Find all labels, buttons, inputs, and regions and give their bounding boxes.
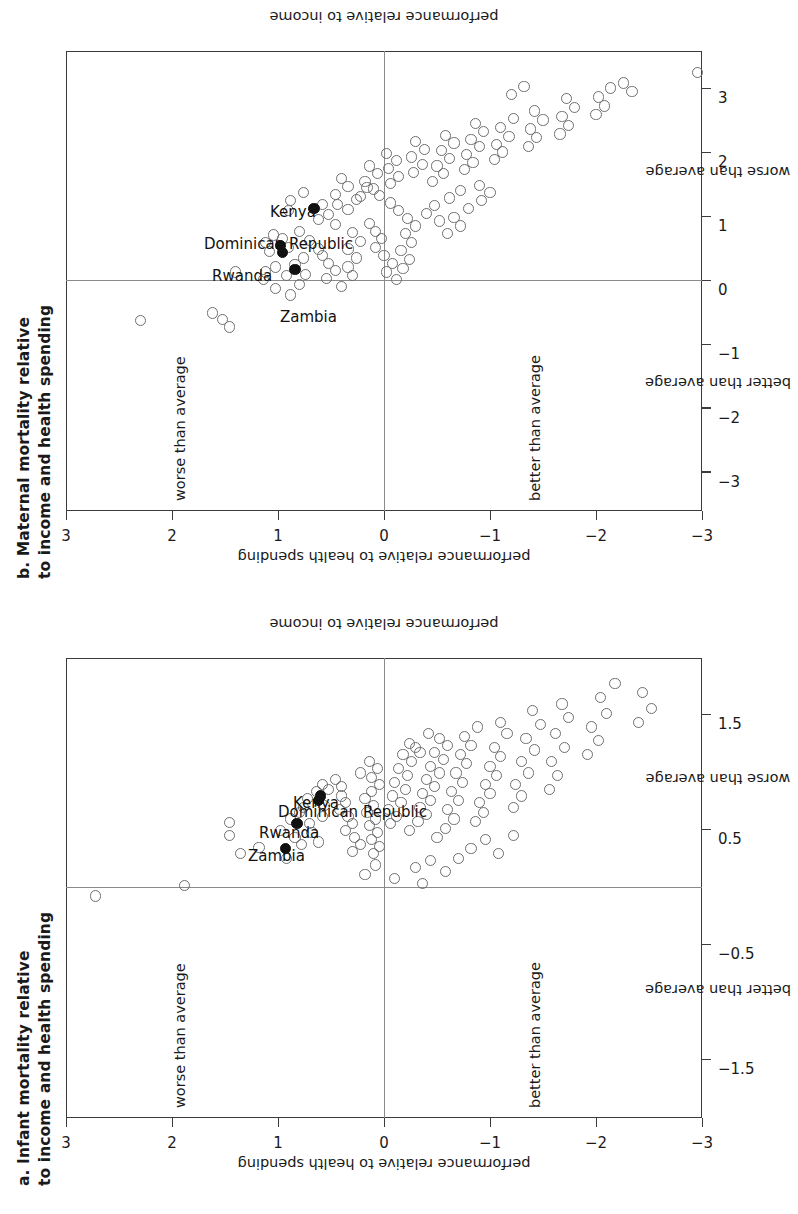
data-point [410, 220, 421, 231]
x-tick [702, 216, 711, 217]
y-tick [490, 511, 491, 520]
y-tick-label: 0 [379, 1134, 389, 1152]
reference-line-horizontal-a [384, 658, 385, 1118]
data-point [484, 187, 495, 198]
panel-a-container: a. Infant mortality relative to income a… [0, 607, 798, 1214]
data-point [421, 208, 432, 219]
y-axis-title: performance relative to health spending [238, 549, 531, 565]
quadrant-label-x-positive: worse than average [646, 771, 791, 787]
data-point [444, 192, 455, 203]
x-tick [702, 88, 711, 89]
quadrant-label-x-negative: better than average [645, 982, 791, 998]
panel-b: b. Maternal mortality relative to income… [0, 0, 798, 607]
data-point [491, 139, 502, 150]
data-point [455, 185, 466, 196]
y-tick [278, 1118, 279, 1127]
data-point [90, 890, 101, 901]
figure-page: { "figure": { "orientation": "rotated-90… [0, 0, 798, 1214]
y-tick-label: 2 [167, 527, 177, 545]
data-point [465, 134, 476, 145]
country-label-dominican-republic: Dominican Republic [204, 235, 353, 253]
panel-a-title-line1: a. Infant mortality relative [14, 626, 35, 1186]
data-point [472, 721, 483, 732]
data-point [544, 784, 555, 795]
data-point [395, 245, 406, 256]
y-tick-label: 3 [61, 1134, 71, 1152]
x-tick [702, 280, 711, 281]
x-tick [702, 344, 711, 345]
x-tick [702, 471, 711, 472]
data-point [478, 807, 489, 818]
data-point [554, 128, 565, 139]
data-point [207, 307, 218, 318]
data-point [285, 289, 296, 300]
y-tick-label: 1 [273, 1134, 283, 1152]
y-tick [66, 1118, 67, 1127]
data-point [400, 784, 411, 795]
data-point [508, 830, 519, 841]
x-tick [702, 1059, 711, 1060]
data-point [450, 767, 461, 778]
data-point [470, 816, 481, 827]
data-point [330, 189, 341, 200]
y-tick-label: −2 [585, 1134, 607, 1152]
data-point [434, 733, 445, 744]
data-point [525, 123, 536, 134]
reference-line-horizontal-b [384, 51, 385, 511]
data-point [370, 859, 381, 870]
data-point [436, 145, 447, 156]
data-point [404, 738, 415, 749]
data-point [503, 131, 514, 142]
y-tick [278, 511, 279, 520]
quadrant-label-x-positive: worse than average [646, 164, 791, 180]
country-label-rwanda: Rwanda [212, 267, 272, 285]
x-tick [702, 944, 711, 945]
data-point [605, 82, 616, 93]
data-point [593, 91, 604, 102]
y-tick-label: −3 [691, 527, 713, 545]
data-point [364, 756, 375, 767]
data-point [332, 199, 343, 210]
x-tick [702, 714, 711, 715]
data-point [474, 180, 485, 191]
y-tick-label: 1 [273, 527, 283, 545]
data-point [397, 749, 408, 760]
country-label-zambia: Zambia [248, 847, 305, 865]
data-point [224, 830, 235, 841]
data-point [381, 148, 392, 159]
data-point [387, 790, 398, 801]
quadrant-label-y-negative: better than average [527, 355, 543, 501]
panel-a-title: a. Infant mortality relative to income a… [14, 626, 56, 1186]
quadrant-label-y-positive: worse than average [172, 963, 188, 1108]
y-tick [66, 511, 67, 520]
data-point [559, 742, 570, 753]
data-point [556, 111, 567, 122]
data-point [448, 137, 459, 148]
data-point [135, 315, 146, 326]
data-point [417, 788, 428, 799]
x-tick-label: −0.5 [718, 946, 754, 964]
data-point [465, 843, 476, 854]
y-tick-label: −3 [691, 1134, 713, 1152]
country-label-rwanda: Rwanda [259, 824, 319, 842]
data-point [404, 825, 415, 836]
x-tick [702, 829, 711, 830]
y-tick [384, 1118, 385, 1127]
data-point [419, 144, 430, 155]
data-point [459, 731, 470, 742]
data-point [402, 213, 413, 224]
data-point [336, 281, 347, 292]
panel-a-title-line2: to income and health spending [35, 626, 56, 1186]
data-point [359, 869, 370, 880]
data-point [414, 747, 425, 758]
data-point [501, 728, 512, 739]
quadrant-label-y-positive: worse than average [172, 356, 188, 501]
x-tick-label: 0.5 [718, 831, 742, 849]
x-tick-label: −2 [718, 409, 740, 427]
data-point [364, 160, 375, 171]
y-tick [172, 1118, 173, 1127]
data-point [381, 266, 392, 277]
data-point [537, 114, 548, 125]
panel-b-container: b. Maternal mortality relative to income… [0, 0, 798, 607]
x-tick-label: 1.5 [718, 716, 742, 734]
